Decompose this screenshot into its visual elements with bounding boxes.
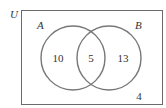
- intersection-count: 5: [88, 52, 94, 64]
- outside-count: 4: [136, 90, 142, 102]
- set-a-circle: [41, 26, 105, 90]
- b-only-count: 13: [118, 52, 130, 64]
- a-only-count: 10: [53, 52, 65, 64]
- universe-label: U: [10, 8, 19, 20]
- set-b-circle: [77, 26, 141, 90]
- set-b-label: B: [135, 19, 142, 31]
- set-a-label: A: [36, 19, 44, 31]
- venn-diagram: U A B 10 5 13 4: [0, 0, 166, 108]
